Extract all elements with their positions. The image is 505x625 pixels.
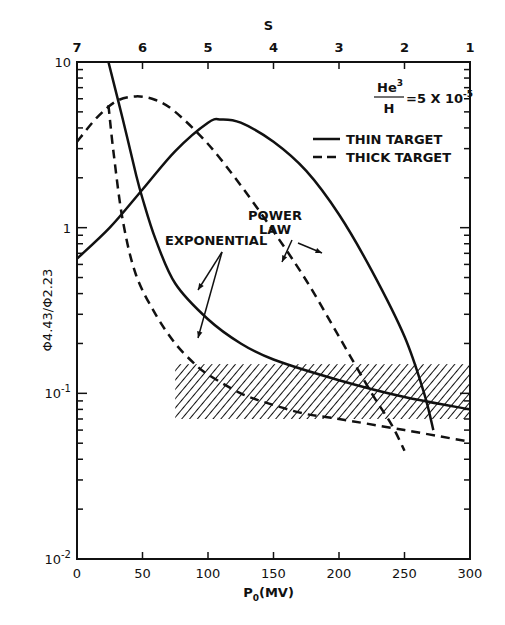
y-tick-label: 10-1 [44,383,71,401]
top-tick-label: 5 [203,40,212,55]
y-axis-label: Φ4.43/Φ2.23 [40,269,55,352]
annotation-exponential: EXPONENTIAL [165,233,267,248]
ratio-value: =5 X 10-5 [406,89,473,106]
x-tick-label: 100 [196,566,221,581]
ratio-numerator: He3 [377,78,403,95]
annotation-law: LAW [259,222,291,237]
shaded-band [175,364,470,419]
x-tick-label: 250 [392,566,417,581]
top-tick-label: 6 [138,40,147,55]
top-tick-label: 3 [334,40,343,55]
y-tick-label: 10 [54,55,71,70]
annotation-arrows [197,240,322,338]
annotation-power: POWER [248,208,302,223]
top-tick-label: 7 [72,40,81,55]
ratio-denominator: H [384,101,395,116]
top-axis-label: S [264,18,273,33]
x-tick-label: 200 [327,566,352,581]
top-tick-label: 1 [465,40,474,55]
x-tick-label: 0 [73,566,81,581]
x-tick-label: 50 [134,566,151,581]
top-tick-label: 4 [269,40,278,55]
y-tick-label: 1 [63,221,71,236]
labels: 10-210-11100501001502002503007654321SP0(… [40,18,482,603]
chart: 10-210-11100501001502002503007654321SP0(… [0,0,505,625]
y-tick-label: 10-2 [44,549,71,567]
top-tick-label: 2 [400,40,409,55]
x-tick-label: 300 [458,566,483,581]
x-tick-label: 150 [261,566,286,581]
x-axis-label: P0(MV) [243,585,294,603]
hatched-band [175,364,470,419]
legend-thin-target: THIN TARGET [346,132,442,147]
legend-thick-target: THICK TARGET [346,150,451,165]
